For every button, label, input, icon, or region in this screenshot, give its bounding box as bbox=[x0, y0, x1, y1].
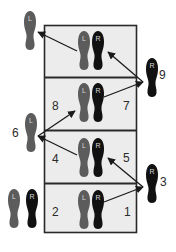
step-label-2: 2 bbox=[52, 206, 59, 218]
svg-text:L: L bbox=[82, 35, 86, 42]
svg-text:L: L bbox=[82, 87, 86, 94]
step-label-9: 9 bbox=[159, 69, 166, 81]
step-label-3: 3 bbox=[160, 176, 167, 188]
svg-text:R: R bbox=[29, 193, 34, 200]
svg-text:L: L bbox=[82, 142, 86, 149]
svg-text:R: R bbox=[149, 62, 154, 69]
svg-text:R: R bbox=[95, 35, 100, 42]
step-label-7: 7 bbox=[123, 100, 130, 112]
svg-text:R: R bbox=[95, 142, 100, 149]
step-label-8: 8 bbox=[52, 100, 59, 112]
step-grid bbox=[44, 26, 137, 233]
svg-text:L: L bbox=[28, 15, 32, 22]
step-label-5: 5 bbox=[123, 152, 130, 164]
step-label-4: 4 bbox=[52, 153, 59, 165]
svg-text:R: R bbox=[149, 168, 154, 175]
svg-text:L: L bbox=[29, 117, 33, 124]
svg-text:L: L bbox=[12, 193, 16, 200]
svg-text:L: L bbox=[82, 194, 86, 201]
step-label-1: 1 bbox=[124, 206, 131, 218]
step-label-6: 6 bbox=[12, 127, 19, 139]
svg-text:R: R bbox=[95, 194, 100, 201]
footwork-diagram: L R L R L R L R L R L R L R bbox=[0, 0, 176, 252]
svg-text:R: R bbox=[95, 87, 100, 94]
